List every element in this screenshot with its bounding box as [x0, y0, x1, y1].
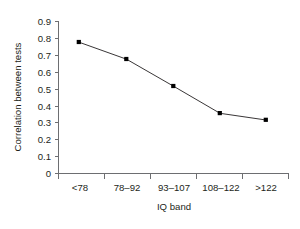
x-tick-label: 93–107 [158, 182, 190, 193]
correlation-line-chart: Correlation between tests 0.9 0.8 0.7 0.… [0, 0, 300, 229]
y-tick-label: 0.9 [38, 16, 51, 27]
y-tick-label: 0 [46, 168, 51, 179]
y-axis-title: Correlation between tests [12, 42, 23, 151]
data-point-marker [124, 57, 128, 61]
y-tick-label: 0.2 [38, 134, 51, 145]
x-axis-ticks: <78 78–92 93–107 108–122 >122 [59, 174, 289, 194]
series-line [79, 42, 266, 120]
x-tick-label: 78–92 [114, 182, 141, 193]
data-point-marker [171, 84, 175, 88]
y-tick-label: 0.4 [38, 101, 52, 112]
y-tick-label: 0.3 [38, 117, 51, 128]
y-tick-label: 0.7 [38, 50, 51, 61]
data-point-marker [264, 118, 268, 122]
x-tick-label: <78 [72, 182, 88, 193]
data-point-marker [218, 111, 222, 115]
y-axis-ticks: 0.9 0.8 0.7 0.6 0.5 0.4 0.3 0.2 0.1 0 [38, 16, 59, 179]
x-tick-label: >122 [255, 182, 277, 193]
y-tick-label: 0.8 [38, 33, 51, 44]
x-tick-label: 108–122 [202, 182, 239, 193]
x-axis-title: IQ band [157, 201, 191, 212]
chart-figure: Correlation between tests 0.9 0.8 0.7 0.… [0, 0, 300, 229]
data-point-marker [77, 40, 81, 44]
y-tick-label: 0.5 [38, 84, 51, 95]
y-tick-label: 0.1 [38, 151, 51, 162]
y-tick-label: 0.6 [38, 67, 51, 78]
series-markers [77, 40, 268, 122]
